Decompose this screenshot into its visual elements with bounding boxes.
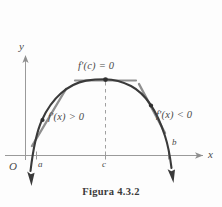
x-axis-label: x bbox=[208, 149, 213, 160]
figure-graphic bbox=[0, 0, 222, 207]
tick-label-a: a bbox=[38, 160, 43, 169]
right-tangency-point bbox=[149, 103, 153, 107]
curve-end-arrows bbox=[27, 169, 175, 186]
origin-label: O bbox=[9, 161, 17, 172]
y-axis bbox=[22, 55, 28, 160]
left-tangency-point bbox=[40, 118, 44, 122]
tick-label-b: b bbox=[172, 138, 177, 147]
y-axis-label: y bbox=[19, 41, 24, 52]
vertex-slope-label: f'(c) = 0 bbox=[78, 61, 114, 72]
figure-caption: Figura 4.3.2 bbox=[0, 186, 222, 197]
figure-container: y x O a c b f'(x) > 0 f'(c) = 0 f'(x) < … bbox=[0, 0, 222, 207]
left-slope-label: f'(x) > 0 bbox=[48, 112, 84, 123]
x-axis bbox=[5, 152, 203, 158]
right-slope-label: f'(x) < 0 bbox=[156, 110, 192, 121]
parabola-curve bbox=[31, 79, 172, 171]
tick-label-c: c bbox=[102, 160, 106, 169]
vertex-tangency-point bbox=[103, 77, 108, 82]
